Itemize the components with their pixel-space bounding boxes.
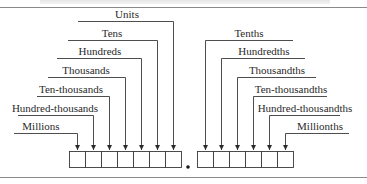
box-thousands <box>118 152 134 168</box>
box-hundreds <box>134 152 150 168</box>
label-ten-thousandths: Ten-thousandths <box>255 83 328 95</box>
decimal-point <box>186 165 190 169</box>
box-units <box>166 152 182 168</box>
box-ten-thousands <box>102 152 118 168</box>
label-tens: Tens <box>102 27 123 39</box>
label-ten-thousands: Ten-thousands <box>39 83 103 95</box>
label-thousands: Thousands <box>62 64 110 76</box>
label-hundred-thousands: Hundred-thousands <box>12 102 98 114</box>
box-hundredths <box>214 152 230 168</box>
place-value-diagram: Units Tens Hundreds Thousands Ten-thousa… <box>0 0 367 184</box>
box-ten-thousandths <box>246 152 262 168</box>
label-millions: Millions <box>22 120 59 132</box>
label-tenths: Tenths <box>234 27 263 39</box>
label-thousandths: Thousandths <box>249 64 305 76</box>
box-hundred-thousandths <box>262 152 278 168</box>
integer-boxes <box>70 152 182 168</box>
clipped-caption <box>40 0 330 4</box>
box-tenths <box>198 152 214 168</box>
label-hundred-thousandths: Hundred-thousandths <box>258 102 353 114</box>
label-hundredths: Hundredths <box>238 45 289 57</box>
box-millions <box>70 152 86 168</box>
label-units: Units <box>115 8 139 20</box>
leader-millions <box>14 134 78 151</box>
box-millionths <box>278 152 294 168</box>
label-millionths: Millionths <box>297 120 343 132</box>
label-hundreds: Hundreds <box>79 45 122 57</box>
diagram-canvas: Units Tens Hundreds Thousands Ten-thousa… <box>0 0 367 184</box>
box-hundred-thousands <box>86 152 102 168</box>
box-tens <box>150 152 166 168</box>
box-thousandths <box>230 152 246 168</box>
leader-millionths <box>286 134 350 151</box>
decimal-boxes <box>198 152 294 168</box>
